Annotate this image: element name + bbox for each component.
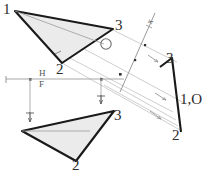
auxiliary-view-edge <box>160 58 181 132</box>
label-fold-f: F <box>39 80 44 89</box>
point-marker-a <box>119 73 122 76</box>
horizontal-view-triangle <box>15 11 113 63</box>
edge-view-polyline <box>160 58 181 132</box>
label-top-vertex-1: 1 <box>3 2 11 17</box>
arrow-to-2 <box>150 111 161 119</box>
arrow-to-3 <box>148 55 158 62</box>
point-marker-b <box>134 59 136 61</box>
projection-line-aux-a <box>66 56 173 112</box>
label-aux-vertex-1-o: 1,O <box>180 92 202 107</box>
label-fold-h: H <box>39 69 46 78</box>
auxiliary-fold-line <box>120 13 155 92</box>
label-front-vertex-3: 3 <box>114 108 122 123</box>
point-o-circle <box>101 39 111 49</box>
label-front-vertex-2: 2 <box>72 158 80 173</box>
geometry-figure: 1 2 3 2 3 3 1,O 2 H F x <box>0 0 209 175</box>
point-markers <box>29 44 146 81</box>
fold-line-x <box>120 13 155 92</box>
label-top-vertex-2: 2 <box>56 62 64 77</box>
drawing-canvas <box>0 0 209 175</box>
label-top-vertex-3: 3 <box>115 18 123 33</box>
arrow-to-1 <box>155 93 166 100</box>
point-marker-c <box>144 44 146 46</box>
label-aux-vertex-3: 3 <box>166 51 174 66</box>
frontal-view-triangle <box>22 111 114 161</box>
label-aux-vertex-2: 2 <box>172 128 180 143</box>
triangle-top-outline <box>15 11 113 63</box>
triangle-front-outline <box>22 111 114 161</box>
